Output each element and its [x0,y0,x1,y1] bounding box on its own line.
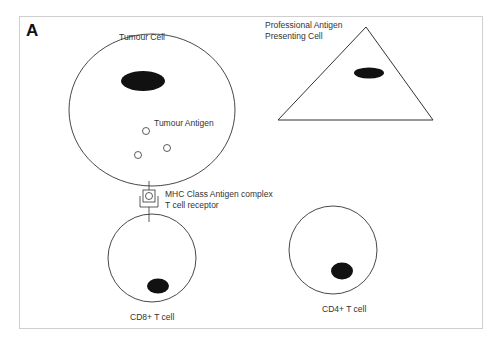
tumour-cell-label: Tumour Cell [119,32,165,42]
tumour-antigen-2 [164,145,171,152]
cd4-label: CD4+ T cell [322,304,366,314]
cd4-cell-shape [289,206,377,294]
tumour-antigen-3 [135,152,142,159]
tumour-cell-shape [69,34,235,186]
cd8-nucleus [147,279,169,294]
antigen-in-mhc [146,193,153,200]
panel-label: A [26,21,38,41]
tumour-antigen-label: Tumour Antigen [154,118,214,128]
apc-label-line1: Professional Antigen [265,20,343,30]
cd8-label: CD8+ T cell [130,312,174,322]
tcr-label: T cell receptor [165,200,219,210]
apc-nucleus [354,68,384,79]
tumour-antigen-1 [143,128,150,135]
apc-label-line2: Presenting Cell [265,31,323,41]
tumour-cell-nucleus [121,71,165,91]
cd4-nucleus [331,263,353,280]
mhc-complex-label: MHC Class Antigen complex [165,189,273,199]
diagram-canvas [0,0,501,346]
